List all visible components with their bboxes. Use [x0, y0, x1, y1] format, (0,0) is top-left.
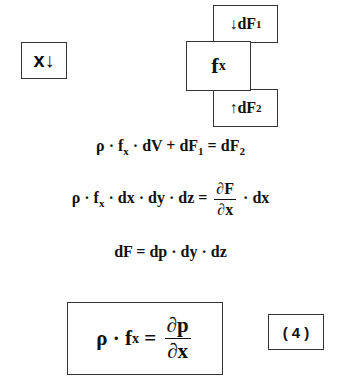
- top-force-box: ↓ dF1: [213, 5, 278, 43]
- bottom-force-symbol: dF: [237, 99, 256, 117]
- final-equals: =: [139, 326, 161, 351]
- eq1-mid: · dV + dF: [129, 137, 198, 154]
- partial-fraction: ∂F∂x: [214, 180, 236, 218]
- eq2-tail: · dx: [243, 189, 269, 206]
- final-equation-box: ρ · fx = ∂p∂x: [67, 302, 223, 375]
- eq1-lhs: ρ · f: [96, 137, 123, 154]
- axis-variable: x: [33, 49, 44, 72]
- eq2-mid: · dx · dy · dz =: [104, 189, 207, 206]
- bottom-force-box: ↑ dF2: [213, 89, 278, 127]
- eq3-text: dF = dp · dy · dz: [114, 243, 227, 260]
- fraction-numerator: ∂F: [214, 180, 236, 200]
- element-box: fx: [186, 41, 251, 91]
- element-symbol: f: [211, 53, 218, 79]
- final-numerator: ∂p: [165, 314, 191, 339]
- equation-number: ( 4 ): [283, 324, 310, 341]
- eq1-rhs: = dF: [204, 137, 240, 154]
- fraction-denominator: ∂x: [217, 200, 233, 219]
- final-partial-fraction: ∂p∂x: [165, 314, 191, 363]
- arrow-up-icon: ↑: [229, 99, 237, 117]
- equation-force-balance: ρ · fx · dV + dF1 = dF2: [0, 137, 341, 155]
- equation-pressure-force: dF = dp · dy · dz: [0, 243, 341, 261]
- axis-direction-box: x ↓: [21, 42, 67, 79]
- equation-volume-expansion: ρ · fx · dx · dy · dz = ∂F∂x · dx: [0, 180, 341, 218]
- equation-number-box: ( 4 ): [268, 314, 324, 350]
- arrow-down-icon: ↓: [45, 49, 55, 72]
- eq1-rhs-sub: 2: [239, 145, 245, 157]
- final-lhs: ρ · f: [96, 326, 132, 351]
- eq2-lhs: ρ · f: [72, 189, 99, 206]
- final-denominator: ∂x: [167, 339, 188, 363]
- arrow-down-icon: ↓: [229, 15, 237, 33]
- top-force-symbol: dF: [237, 15, 256, 33]
